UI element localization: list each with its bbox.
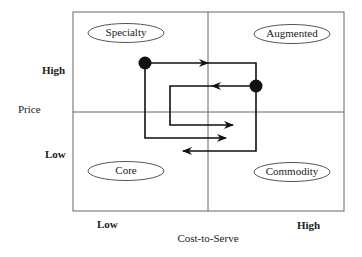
quadrant-label-augmented: Augmented xyxy=(254,27,330,39)
augmented-dot xyxy=(250,80,263,93)
quadrant-label-specialty: Specialty xyxy=(88,26,164,38)
x-axis-high-label: High xyxy=(297,219,320,231)
y-axis-low-label: Low xyxy=(45,148,66,160)
x-axis-low-label: Low xyxy=(97,218,118,230)
y-axis-high-label: High xyxy=(42,64,65,76)
arrow-loop-to-commodity xyxy=(170,86,233,125)
quadrant-label-core: Core xyxy=(88,164,164,176)
connector-top xyxy=(208,63,256,86)
arrow-augmented-to-core xyxy=(183,86,256,151)
arrow-specialty-to-commodity xyxy=(145,63,226,138)
specialty-dot xyxy=(139,57,152,70)
y-axis-title: Price xyxy=(18,103,41,115)
x-axis-title: Cost-to-Serve xyxy=(158,232,258,244)
quadrant-label-commodity: Commodity xyxy=(254,165,330,177)
